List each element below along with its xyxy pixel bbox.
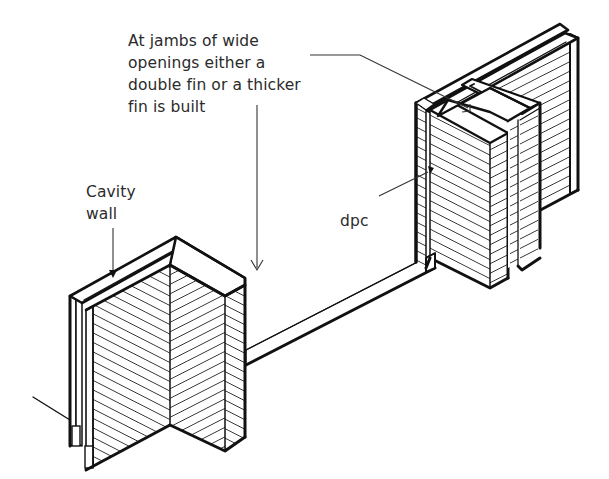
annotation-dpc: dpc [340,210,369,232]
right-pier [416,24,578,288]
annotation-jambs: At jambs of wide openings either a doubl… [128,30,301,118]
leader-jambs-left [251,105,263,270]
annotation-cavity-wall: Cavity wall [86,181,136,225]
fin-wall-diagram [0,0,609,479]
annotation-cavity-line-1: Cavity [86,181,136,203]
connecting-wall [246,253,435,365]
annotation-jambs-line-2: openings either a [128,52,301,74]
left-pier [33,237,245,470]
left-fin [170,237,245,451]
right-fin-front [430,100,508,288]
annotation-cavity-line-2: wall [86,203,136,225]
left-cavity-outer-leaf [70,293,82,446]
leader-cavity-wall [109,228,117,278]
annotation-jambs-line-1: At jambs of wide [128,30,301,52]
annotation-dpc-line-1: dpc [340,210,369,232]
left-inner-leaf [85,265,170,470]
annotation-jambs-line-4: fin is built [128,96,301,118]
annotation-jambs-line-3: double fin or a thicker [128,74,301,96]
